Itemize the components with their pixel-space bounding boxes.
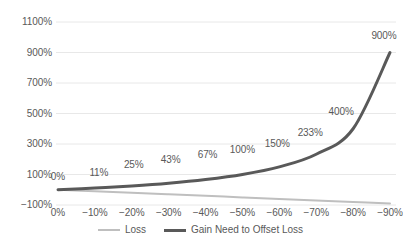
x-axis-tick-label: −50%	[230, 208, 255, 218]
x-axis-tick-label: −70%	[303, 208, 328, 218]
x-axis-tick-label: −80%	[340, 208, 365, 218]
x-axis-tick-label: −20%	[119, 208, 144, 218]
x-axis-tick-label: −90%	[377, 208, 402, 218]
legend-line-swatch-icon	[164, 229, 186, 232]
x-axis-tick-label: −30%	[156, 208, 181, 218]
x-axis-tick-label: −60%	[267, 208, 292, 218]
x-axis-tick-label: −10%	[82, 208, 107, 218]
legend-line-swatch-icon	[98, 229, 120, 231]
legend-item-label: Gain Need to Offset Loss	[191, 225, 303, 235]
legend-item-loss[interactable]: Loss	[98, 225, 146, 235]
chart-legend: Loss Gain Need to Offset Loss	[0, 220, 401, 240]
x-axis-tick-label: 0%	[51, 208, 65, 218]
x-axis-tick-label: −40%	[193, 208, 218, 218]
legend-item-label: Loss	[125, 225, 146, 235]
legend-item-gain-need-to-offset-loss[interactable]: Gain Need to Offset Loss	[164, 225, 303, 235]
